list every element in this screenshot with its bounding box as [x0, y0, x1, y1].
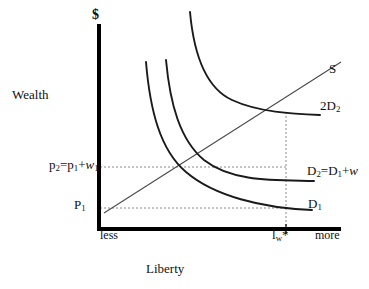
curve-label-d1-text: D1	[308, 196, 322, 211]
x-axis-title: Liberty	[146, 262, 184, 275]
axes	[97, 24, 341, 229]
supply-line-s	[104, 62, 341, 213]
y-axis-unit-label: $	[92, 8, 99, 22]
y-tick-label-p2: p2=p1+w1	[49, 158, 99, 173]
y-tick-label-p1-text: P1	[74, 197, 86, 212]
curve-label-supply: S	[329, 62, 336, 75]
economics-diagram	[0, 0, 369, 289]
guide-lines	[100, 112, 286, 233]
curve-label-2d2: 2D2	[320, 99, 340, 114]
y-tick-label-p1: P1	[74, 198, 86, 213]
curve-label-d2-text: D2=D1+w	[307, 163, 358, 178]
demand-curve-d2	[166, 60, 314, 181]
y-tick-label-p2-text: p2=p1+w1	[49, 157, 99, 172]
x-axis-left-extreme-label: less	[100, 229, 118, 241]
curve-label-d1: D1	[308, 197, 322, 212]
curve-label-2d2-text: 2D2	[320, 98, 340, 113]
x-axis-right-extreme-label: more	[315, 229, 340, 241]
curve-label-d2: D2=D1+w	[307, 164, 358, 179]
y-axis-title: Wealth	[12, 88, 49, 101]
demand-curve-2d2	[190, 12, 320, 115]
x-tick-label-lw: lw*	[272, 228, 289, 243]
x-tick-label-lw-text: lw*	[272, 227, 289, 242]
demand-curve-d1	[146, 62, 312, 210]
